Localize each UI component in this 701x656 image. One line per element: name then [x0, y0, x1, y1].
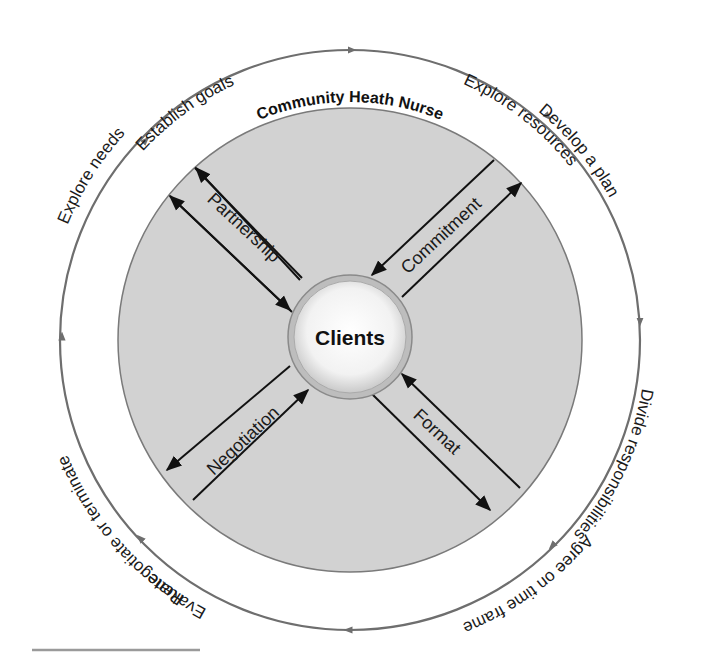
- step-label-establish-goals: Establish goals: [132, 71, 237, 154]
- step-label-develop-a-plan: Develop a plan: [535, 100, 623, 200]
- center-label: Clients: [315, 326, 385, 349]
- step-label-divide-responsibilities: Divide responsibilities: [570, 387, 657, 544]
- nursing-process-diagram: Clients Partnership Commitment Format Ne…: [0, 0, 701, 656]
- step-label-agree-on-time-frame: Agree on time frame: [460, 531, 596, 637]
- clients-node: Clients: [288, 275, 412, 399]
